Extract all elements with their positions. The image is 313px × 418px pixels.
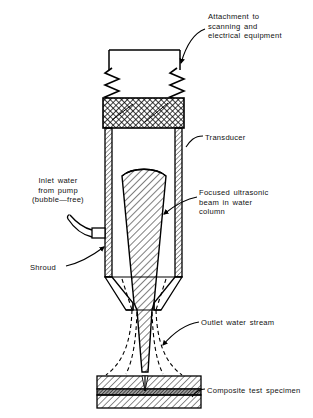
inlet-water-port [68,215,106,239]
label-shroud: Shroud [30,263,56,273]
composite-test-specimen [97,376,201,408]
leader-outlet [163,322,199,345]
label-composite-test-specimen: Composite test specimen [207,386,300,396]
mounting-bracket [109,50,180,70]
leader-attachment [181,29,205,63]
label-attachment: Attachment to scanning and electrical eq… [208,12,282,41]
leader-transducer [186,136,203,147]
label-focused-beam: Focused ultrasonic beam in water column [199,188,268,217]
label-inlet-water: Inlet water from pump (bubble—free) [16,176,100,205]
focused-beam-cone [122,169,166,372]
label-transducer: Transducer [205,133,246,143]
leader-shroud [66,247,104,266]
figure-canvas: Attachment to scanning and electrical eq… [0,0,313,418]
transducer-housing [103,98,184,128]
label-outlet-water-stream: Outlet water stream [201,318,274,328]
